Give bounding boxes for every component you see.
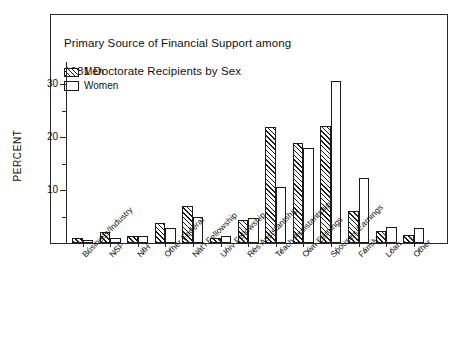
x-category-label: NSF: [107, 240, 126, 259]
chart-figure: Primary Source of Financial Support amon…: [0, 0, 461, 346]
x-axis-category-labels: Business/Industry⁄NSF⁄NIH⁄Other Federal⁄…: [0, 0, 461, 346]
x-category-label: Loan: [383, 239, 403, 259]
x-category-label: Other: [411, 237, 433, 259]
